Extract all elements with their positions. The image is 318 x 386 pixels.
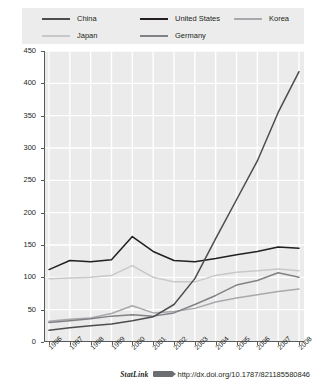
plot-area	[44, 51, 304, 342]
y-tick-label: 450	[23, 47, 36, 55]
y-tick-label: 250	[23, 177, 36, 185]
data-series-lines	[44, 51, 304, 342]
y-axis-labels: 050100150200250300350400450	[0, 51, 40, 342]
y-axis-line	[44, 51, 45, 342]
chart-figure: China United States Korea Japan Germany …	[0, 0, 318, 386]
y-tick-label: 300	[23, 144, 36, 152]
statlink-label: StatLink	[120, 370, 148, 379]
legend-item-china: China	[42, 10, 97, 28]
legend-row-1: China United States Korea	[22, 10, 304, 28]
legend-swatch-china	[42, 18, 70, 20]
legend-label-japan: Japan	[77, 32, 97, 40]
legend-item-japan: Japan	[42, 27, 97, 45]
legend-swatch-united-states	[140, 18, 168, 20]
legend-label-china: China	[77, 15, 97, 23]
chart-legend: China United States Korea Japan Germany	[22, 8, 304, 44]
y-tick-label: 350	[23, 112, 36, 120]
y-tick-label: 200	[23, 209, 36, 217]
statlink-badge-icon	[153, 371, 173, 377]
y-tick-label: 150	[23, 241, 36, 249]
legend-swatch-korea	[234, 18, 262, 20]
legend-label-germany: Germany	[175, 32, 206, 40]
y-tick-label: 50	[28, 306, 36, 314]
legend-item-united-states: United States	[140, 10, 220, 28]
y-tick-label: 0	[32, 338, 36, 346]
y-tick-label: 100	[23, 274, 36, 282]
legend-item-germany: Germany	[140, 27, 206, 45]
legend-row-2: Japan Germany	[22, 27, 304, 45]
statlink-footer: StatLink http://dx.doi.org/10.1787/82118…	[0, 367, 318, 381]
statlink-url[interactable]: http://dx.doi.org/10.1787/821185580846	[178, 370, 310, 379]
legend-item-korea: Korea	[234, 10, 289, 28]
legend-swatch-germany	[140, 35, 168, 37]
legend-swatch-japan	[42, 35, 70, 37]
legend-label-korea: Korea	[269, 15, 289, 23]
y-tick-label: 400	[23, 80, 36, 88]
legend-label-united-states: United States	[175, 15, 220, 23]
